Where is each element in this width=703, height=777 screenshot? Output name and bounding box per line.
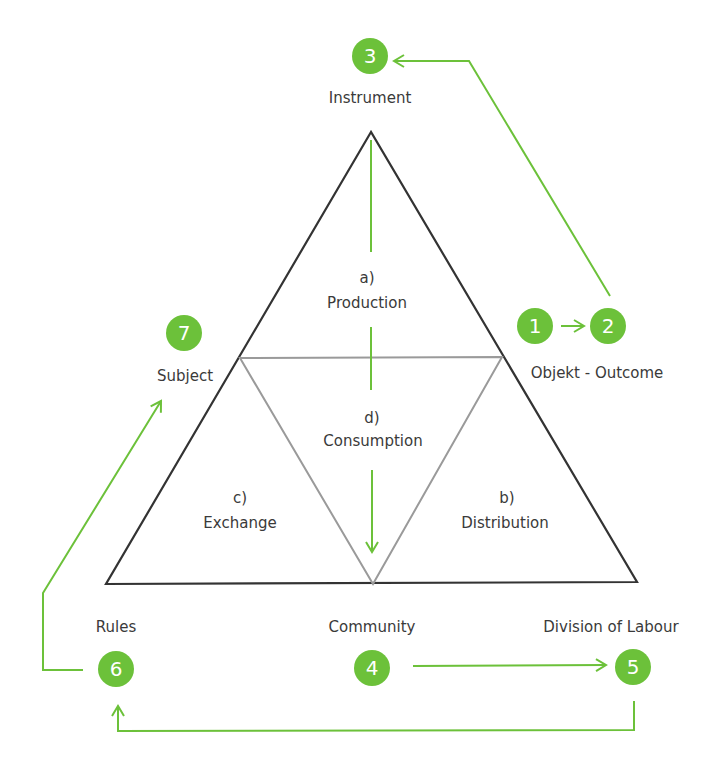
subject-label: Subject <box>157 366 213 386</box>
section-d-label: Consumption <box>323 431 422 451</box>
node-2-circle: 2 <box>590 308 626 344</box>
node-3-circle: 3 <box>352 38 388 74</box>
division-of-labour-label: Division of Labour <box>543 617 678 637</box>
arrow-5-to-6 <box>118 701 634 731</box>
section-c-label: Exchange <box>203 513 276 533</box>
arrow-4-to-5 <box>413 665 606 666</box>
node-7-circle: 7 <box>166 315 202 351</box>
arrow-2-to-3 <box>394 61 610 296</box>
rules-label: Rules <box>96 617 136 637</box>
section-d-letter: d) <box>364 408 379 428</box>
node-6-circle: 6 <box>98 651 134 687</box>
section-a-label: Production <box>327 293 407 313</box>
community-label: Community <box>329 617 416 637</box>
instrument-label: Instrument <box>329 88 412 108</box>
objekt-outcome-label: Objekt - Outcome <box>531 363 664 383</box>
section-b-letter: b) <box>499 488 514 508</box>
section-b-label: Distribution <box>461 513 549 533</box>
node-5-circle: 5 <box>615 649 651 685</box>
section-c-letter: c) <box>233 488 247 508</box>
node-1-circle: 1 <box>517 308 553 344</box>
node-4-circle: 4 <box>354 650 390 686</box>
section-a-letter: a) <box>359 268 374 288</box>
